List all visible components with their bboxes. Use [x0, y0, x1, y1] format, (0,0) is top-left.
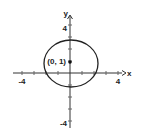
y-tick-label-pos: 4: [63, 24, 68, 33]
x-tick-label-neg: -4: [18, 77, 26, 86]
x-axis-label: x: [127, 69, 132, 78]
x-tick-label-pos: 4: [116, 77, 121, 86]
y-tick-label-neg: -4: [60, 119, 68, 128]
coordinate-plane: y x 4 -4 -4 4 (0, 1): [0, 0, 141, 136]
x-axis-arrow-icon: [122, 71, 126, 76]
center-point: [68, 60, 72, 64]
point-label: (0, 1): [47, 57, 66, 66]
y-axis-label: y: [64, 9, 69, 18]
